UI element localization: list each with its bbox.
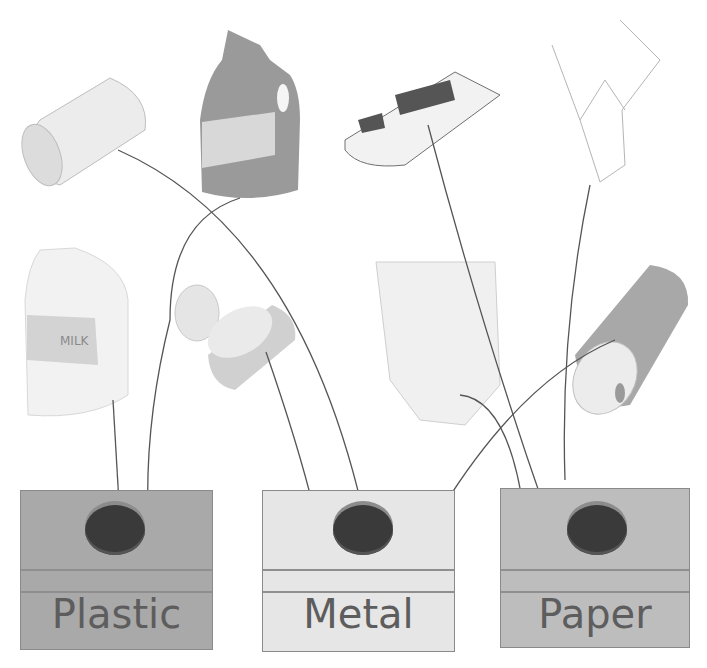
bin-paper: Paper [500,488,690,648]
bin-band [21,569,212,593]
bin-band [263,569,454,593]
detergent-bottle-icon [200,30,300,198]
cardboard-box-icon [552,20,660,182]
milk-label: MILK [60,334,90,348]
bin-hole [333,505,393,555]
tin-can-icon [14,78,145,191]
bin-hole [567,505,627,555]
newspaper-icon [345,72,500,166]
bin-label: Plastic [21,591,212,637]
open-food-can-icon [175,285,295,390]
aerosol-can-icon [560,265,688,426]
bin-band [501,569,689,593]
bin-plastic: Plastic [20,490,213,650]
bin-hole [85,505,145,555]
bin-label: Metal [263,591,454,637]
bin-metal: Metal [262,490,455,652]
paper-bag-icon [376,262,500,425]
milk-jug-icon: MILK [25,248,128,416]
bin-label: Paper [501,591,689,637]
